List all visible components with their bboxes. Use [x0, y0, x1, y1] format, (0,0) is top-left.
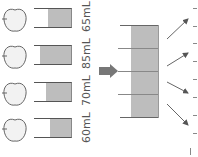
- volume-label: 65mL: [80, 0, 94, 32]
- container-line: [118, 71, 158, 72]
- dash-mark: [193, 43, 197, 44]
- juice-tube: [34, 8, 72, 28]
- container-line: [118, 94, 158, 95]
- apple-icon: [2, 44, 28, 70]
- apple-icon: [2, 7, 28, 33]
- container-line: [120, 117, 158, 118]
- fan-out-arrows: [160, 10, 194, 130]
- juice-tube: [34, 82, 72, 102]
- right-arrow-icon: [99, 64, 119, 78]
- juice-tube: [34, 45, 72, 65]
- volume-label: 85mL: [80, 29, 94, 69]
- dash-mark: [193, 61, 197, 62]
- dash-mark: [193, 8, 197, 9]
- dash-mark: [193, 133, 197, 134]
- dash-mark: [193, 79, 197, 80]
- container-line: [118, 48, 158, 49]
- juice-fill: [46, 83, 71, 101]
- volume-label: 70mL: [80, 66, 94, 106]
- juice-tube: [34, 118, 72, 138]
- juice-fill: [40, 46, 71, 64]
- dash-mark: [193, 115, 197, 116]
- tick-mark: [190, 148, 191, 155]
- juice-fill: [48, 9, 71, 27]
- container-line: [120, 25, 158, 26]
- volume-label: 60mL: [80, 103, 94, 143]
- dash-mark: [193, 26, 197, 27]
- dash-mark: [193, 97, 197, 98]
- apple-icon: [2, 81, 28, 107]
- apple-icon: [2, 117, 28, 143]
- juice-fill: [50, 119, 71, 137]
